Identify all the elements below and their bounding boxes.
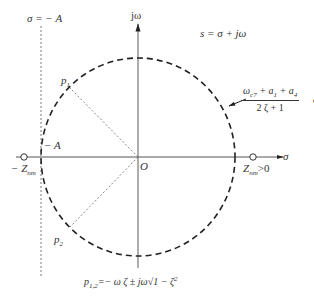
zero-left-marker <box>21 154 27 160</box>
zero-right-marker <box>250 154 256 160</box>
radius-annotation: ωc7 + a1 + a4eiθ 2 ζ + 1 <box>241 85 299 113</box>
jw-axis-label: jω <box>131 10 141 21</box>
sigma-axis-label: σ <box>283 151 288 162</box>
radius-exponential: eiθ <box>313 93 314 105</box>
radius-numerator: ωc7 + a1 + a4 <box>241 85 299 101</box>
s-equation: s = σ + jω <box>200 28 246 39</box>
origin-label: O <box>140 161 148 172</box>
pole-p2-label: p2 <box>54 234 63 248</box>
vertical-line-label: σ = − A <box>27 13 62 24</box>
p2-radius-line <box>70 157 138 227</box>
pole-formula: p1,2=− ω ζ ± jω√1 − ζ2 <box>84 276 177 290</box>
intercept-label: − A <box>44 140 61 151</box>
zero-right-label: Znm>0 <box>243 163 269 177</box>
p1-radius-line <box>70 88 138 157</box>
radius-denominator: 2 ζ + 1 <box>241 101 299 113</box>
pole-p1-label: p1 <box>61 75 70 89</box>
zero-left-label: − Znm <box>11 163 36 177</box>
